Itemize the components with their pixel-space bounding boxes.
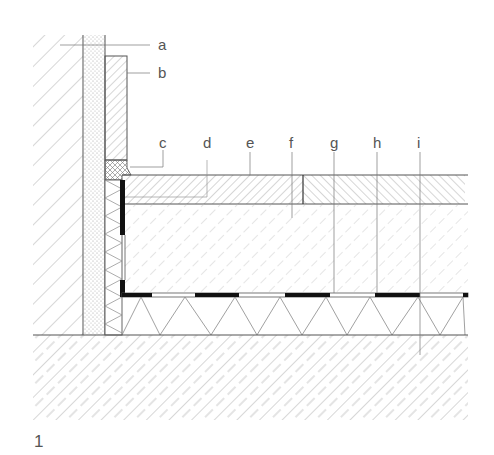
- label-e: e: [246, 134, 254, 151]
- label-d: d: [203, 134, 211, 151]
- label-a: a: [158, 36, 167, 53]
- plaster-layer: [83, 35, 105, 335]
- concrete-slab: [33, 335, 468, 420]
- floor-covering: [122, 160, 468, 204]
- callout-labels: a b c d e f g h i: [158, 36, 420, 151]
- label-g: g: [330, 134, 338, 151]
- label-i: i: [417, 134, 420, 151]
- label-c: c: [159, 134, 167, 151]
- label-h: h: [373, 134, 381, 151]
- screed-layer: [122, 204, 468, 293]
- figure-number: 1: [34, 432, 43, 451]
- skirting-board: [105, 56, 127, 160]
- masonry-wall: [33, 35, 83, 335]
- section-drawing: a b c d e f g h i 1: [0, 0, 494, 455]
- edge-insulation-strip: [105, 180, 122, 335]
- label-b: b: [158, 64, 166, 81]
- impact-insulation: [122, 297, 465, 335]
- label-f: f: [289, 134, 294, 151]
